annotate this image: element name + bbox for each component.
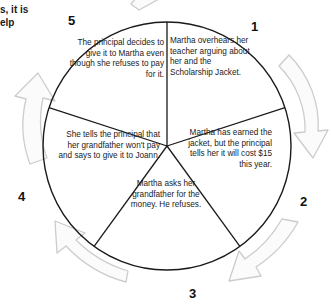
segment-text-5: The principal decides to give it to Mart…	[66, 38, 164, 80]
segment-number-3: 3	[189, 287, 196, 300]
segment-text-4: She tells the principal that her grandfa…	[58, 130, 160, 162]
cut-off-text-fragment: s, it is elp	[0, 4, 62, 29]
segment-number-5: 5	[68, 14, 75, 27]
segment-number-1: 1	[251, 20, 258, 33]
segment-number-4: 4	[18, 190, 25, 203]
segment-text-3: Martha asks her grandfather for the mone…	[128, 179, 204, 211]
diagram-page: s, it is elp 1 2 3 4 5 Martha overhears …	[0, 0, 331, 307]
arrow-right-icon	[279, 55, 328, 158]
arrow-bottom-right-icon	[229, 219, 298, 281]
arrow-bottom-left-icon	[55, 221, 128, 282]
segment-text-2: Martha has earned the jacket, but the pr…	[180, 128, 272, 170]
arrow-top-icon	[128, 0, 168, 10]
arrow-left-icon	[15, 73, 55, 164]
cycle-diagram-graphic	[0, 0, 331, 307]
segment-text-1: Martha overhears her teacher arguing abo…	[170, 36, 256, 78]
segment-number-2: 2	[300, 195, 307, 208]
